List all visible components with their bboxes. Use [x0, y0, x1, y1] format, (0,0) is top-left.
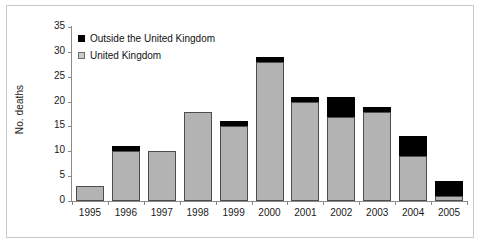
bar-group[interactable]	[435, 181, 463, 201]
bar-segment-uk[interactable]	[256, 62, 284, 201]
x-tick-label: 1999	[216, 207, 252, 218]
x-tick-label: 2005	[431, 207, 467, 218]
bar-segment-uk[interactable]	[76, 186, 104, 201]
bar-segment-uk[interactable]	[399, 156, 427, 201]
bar-segment-outside-uk[interactable]	[399, 136, 427, 156]
legend-label-uk: United Kingdom	[90, 50, 161, 61]
bar-segment-uk[interactable]	[363, 112, 391, 201]
bar-group[interactable]	[184, 112, 212, 201]
y-tick-mark	[68, 126, 72, 127]
y-tick-mark	[68, 77, 72, 78]
bar-group[interactable]	[291, 97, 319, 201]
bar-segment-outside-uk[interactable]	[363, 107, 391, 112]
legend-item-outside-uk: Outside the United Kingdom	[78, 31, 215, 46]
bar-segment-uk[interactable]	[327, 117, 355, 202]
bar-group[interactable]	[148, 151, 176, 201]
x-tick-mark	[395, 201, 396, 205]
x-tick-mark	[144, 201, 145, 205]
x-tick-label: 2003	[359, 207, 395, 218]
y-tick-mark	[68, 52, 72, 53]
bar-group[interactable]	[399, 136, 427, 201]
y-tick-label: 25	[54, 70, 65, 81]
x-tick-label: 2002	[323, 207, 359, 218]
x-tick-mark	[180, 201, 181, 205]
legend-swatch-black-square-icon	[78, 35, 85, 42]
legend-label-outside-uk: Outside the United Kingdom	[90, 33, 215, 44]
y-tick-mark	[68, 151, 72, 152]
bar-segment-outside-uk[interactable]	[256, 57, 284, 62]
legend-swatch-gray-square-icon	[78, 52, 85, 59]
bar-group[interactable]	[363, 107, 391, 201]
x-tick-label: 2004	[395, 207, 431, 218]
y-tick-label: 35	[54, 20, 65, 31]
y-tick-label: 10	[54, 144, 65, 155]
bar-group[interactable]	[76, 186, 104, 201]
y-tick-label: 0	[59, 194, 65, 205]
bar-segment-uk[interactable]	[435, 196, 463, 201]
bar-group[interactable]	[220, 121, 248, 201]
bar-segment-outside-uk[interactable]	[291, 97, 319, 102]
bar-group[interactable]	[112, 146, 140, 201]
x-axis-line	[71, 201, 468, 202]
bar-segment-uk[interactable]	[220, 126, 248, 201]
y-tick-mark	[68, 176, 72, 177]
bar-segment-outside-uk[interactable]	[435, 181, 463, 196]
legend-item-uk: United Kingdom	[78, 48, 215, 63]
x-tick-mark	[72, 201, 73, 205]
x-tick-label: 2001	[287, 207, 323, 218]
bar-segment-uk[interactable]	[291, 102, 319, 201]
y-tick-label: 20	[54, 95, 65, 106]
x-tick-label: 1995	[72, 207, 108, 218]
x-tick-label: 1996	[108, 207, 144, 218]
bar-segment-outside-uk[interactable]	[327, 97, 355, 117]
x-tick-label: 1997	[144, 207, 180, 218]
y-axis-label: No. deaths	[14, 70, 25, 150]
bar-segment-outside-uk[interactable]	[220, 121, 248, 126]
bar-segment-outside-uk[interactable]	[112, 146, 140, 151]
x-tick-label: 2000	[252, 207, 288, 218]
x-tick-mark	[323, 201, 324, 205]
x-tick-mark	[216, 201, 217, 205]
y-tick-label: 30	[54, 45, 65, 56]
x-tick-label: 1998	[180, 207, 216, 218]
bar-group[interactable]	[256, 57, 284, 201]
y-tick-label: 15	[54, 119, 65, 130]
x-tick-mark	[252, 201, 253, 205]
chart-legend: Outside the United Kingdom United Kingdo…	[78, 31, 215, 65]
y-tick-mark	[68, 27, 72, 28]
x-tick-mark	[467, 201, 468, 205]
y-tick-label: 5	[59, 169, 65, 180]
chart-figure: No. deaths 05101520253035 19951996199719…	[0, 0, 481, 245]
x-tick-mark	[431, 201, 432, 205]
y-tick-mark	[68, 102, 72, 103]
bar-segment-uk[interactable]	[148, 151, 176, 201]
bar-segment-uk[interactable]	[184, 112, 212, 201]
bar-segment-uk[interactable]	[112, 151, 140, 201]
x-tick-mark	[287, 201, 288, 205]
x-tick-mark	[108, 201, 109, 205]
bar-group[interactable]	[327, 97, 355, 201]
x-tick-mark	[359, 201, 360, 205]
